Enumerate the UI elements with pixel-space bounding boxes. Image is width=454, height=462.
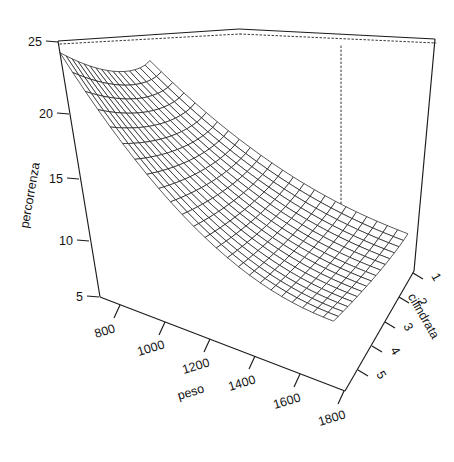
- x-axis-title: peso: [176, 382, 206, 403]
- x-axis-tick-labels: 800 1000 1200 1400 1600 1800: [93, 321, 347, 429]
- z-tick-label: 20: [39, 107, 53, 121]
- z-tick-label: 10: [59, 234, 73, 248]
- z-tick-label: 5: [76, 290, 83, 304]
- x-tick-label: 1600: [271, 390, 302, 412]
- z-axis-title: percorrenza: [17, 161, 42, 229]
- x-tick-label: 1200: [180, 355, 211, 377]
- y-tick-label: 5: [373, 369, 389, 382]
- x-tick-label: 800: [93, 321, 117, 340]
- y-tick-label: 4: [387, 345, 403, 358]
- z-tick-label: 15: [49, 172, 63, 186]
- y-tick-label: 3: [400, 321, 416, 334]
- z-tick-label: 25: [28, 35, 42, 49]
- x-tick-label: 1800: [316, 407, 347, 429]
- persp-plot-figure: 25 20 15 10 5 percorrenza 800 1000 1200 …: [0, 0, 454, 462]
- surface-plot-canvas: 25 20 15 10 5 percorrenza 800 1000 1200 …: [0, 0, 454, 462]
- x-tick-label: 1000: [135, 337, 166, 359]
- surface-mesh: [60, 53, 408, 322]
- y-tick-label: 1: [428, 271, 444, 284]
- x-tick-label: 1400: [226, 372, 257, 394]
